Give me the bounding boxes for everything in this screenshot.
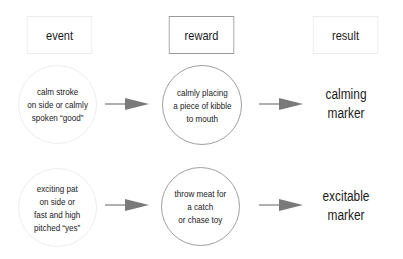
reward-header: reward [169, 16, 234, 54]
right-arrow-icon [105, 98, 149, 110]
result-header: result [313, 16, 378, 54]
reward-text-calm: calmly placing a piece of kibble to mout… [173, 86, 231, 125]
reward-circle-calm: calmly placing a piece of kibble to mout… [162, 65, 242, 145]
event-circle-exciting: exciting pat on side or fast and high pi… [18, 168, 97, 247]
right-arrow-icon [105, 199, 149, 211]
event-header: event [27, 16, 92, 54]
right-arrow-icon [259, 199, 303, 211]
reward-circle-exciting: throw meat for a catch or chase toy [161, 167, 240, 246]
event-text-calm: calm stroke on side or calmly spoken “go… [27, 85, 88, 124]
reward-text-exciting: throw meat for a catch or chase toy [175, 187, 227, 226]
result-calming-marker: calming marker [308, 85, 385, 123]
event-circle-calm: calm stroke on side or calmly spoken “go… [18, 65, 97, 144]
result-excitable-marker: excitable marker [308, 187, 385, 225]
right-arrow-icon [259, 98, 303, 110]
event-text-exciting: exciting pat on side or fast and high pi… [34, 182, 80, 234]
